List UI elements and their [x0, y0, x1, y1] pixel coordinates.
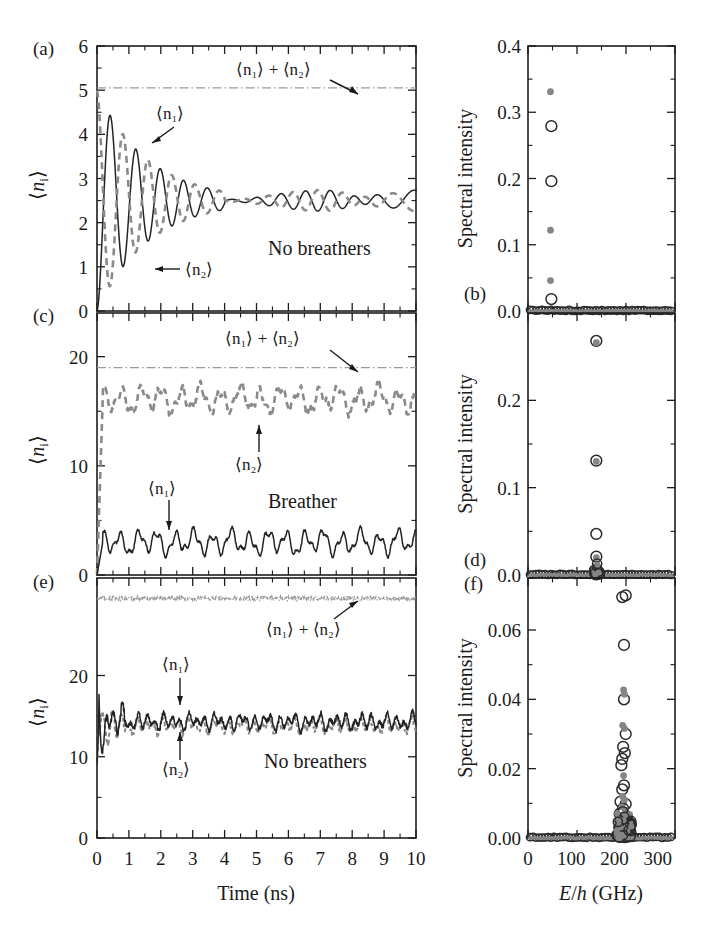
xtick-label-time: 5 [252, 848, 262, 869]
ytick-label-f: 0.02 [488, 759, 521, 780]
data-point-filled [621, 725, 628, 732]
xtick-label-time: 6 [284, 848, 294, 869]
panel-label-e: (e) [33, 571, 54, 593]
xaxis-title-time: Time (ns) [217, 882, 295, 905]
data-point-filled [547, 227, 554, 234]
ytick-label-a: 0 [79, 301, 89, 322]
panel-e: (e)01020⟨ni⟩⟨n₁⟩ + ⟨n₂⟩⟨n₁⟩⟨n₂⟩No breath… [26, 571, 426, 905]
ytick-label-f: 0.04 [488, 689, 522, 710]
data-point-filled [547, 277, 554, 284]
data-point-open [591, 529, 602, 540]
xtick-label-time: 9 [379, 848, 389, 869]
note-c: Breather [268, 490, 337, 512]
annotation-sum-a: ⟨n₁⟩ + ⟨n₂⟩ [236, 60, 311, 79]
xtick-label-time: 10 [407, 848, 426, 869]
annotation-n1-c: ⟨n₁⟩ [148, 479, 176, 498]
ytick-label-f: 0.00 [488, 828, 521, 849]
panel-d: (d)0.00.10.2Spectral intensity [454, 313, 675, 586]
ytick-label-e: 20 [69, 666, 88, 687]
ytick-label-d: 0.0 [497, 565, 521, 586]
xtick-label-time: 1 [124, 848, 134, 869]
data-point-filled [621, 796, 628, 803]
panel-f: (f)0.000.020.040.06Spectral intensity010… [454, 573, 675, 905]
annotation-n2-a: ⟨n₂⟩ [185, 260, 213, 279]
panel-a: (a)0123456⟨ni⟩⟨n₁⟩ + ⟨n₂⟩⟨n₁⟩⟨n₂⟩No brea… [26, 36, 416, 322]
ytick-label-b: 0.4 [497, 36, 521, 57]
data-point-open [616, 760, 627, 771]
note-e: No breathers [264, 750, 367, 772]
yaxis-title-d: Spectral intensity [454, 374, 477, 513]
n1-curve-a [97, 115, 416, 311]
yaxis-title-e: ⟨ni⟩ [26, 697, 51, 727]
plot-frame [97, 578, 416, 838]
ytick-label-b: 0.2 [497, 169, 521, 190]
panel-b: (b)0.00.10.20.30.4Spectral intensity [454, 36, 675, 322]
xtick-label-time: 7 [316, 848, 326, 869]
annotation-n1-e: ⟨n₁⟩ [162, 655, 190, 674]
ytick-label-b: 0.3 [497, 102, 521, 123]
annotation-sum-e: ⟨n₁⟩ + ⟨n₂⟩ [266, 620, 341, 639]
ytick-label-a: 1 [79, 257, 89, 278]
xtick-label-energy: 100 [557, 848, 586, 869]
ytick-label-c: 20 [69, 347, 88, 368]
panel-label-c: (c) [33, 305, 54, 327]
data-point-filled [547, 88, 554, 95]
data-point-open [620, 590, 631, 601]
xtick-label-time: 2 [156, 848, 166, 869]
annotation-n1-a: ⟨n₁⟩ [156, 104, 184, 123]
figure-svg: (a)0123456⟨ni⟩⟨n₁⟩ + ⟨n₂⟩⟨n₁⟩⟨n₂⟩No brea… [0, 0, 708, 936]
yaxis-title-c: ⟨ni⟩ [26, 435, 51, 465]
n2-curve-e [97, 710, 416, 765]
annotation-n2-c: ⟨n₂⟩ [235, 455, 263, 474]
xtick-label-time: 3 [188, 848, 198, 869]
ytick-label-d: 0.1 [497, 478, 521, 499]
plot-frame [528, 46, 675, 311]
xtick-label-time: 8 [347, 848, 357, 869]
ytick-label-b: 0.1 [497, 235, 521, 256]
panel-label-f: (f) [464, 573, 483, 595]
ytick-label-a: 3 [79, 169, 89, 190]
data-point-filled [593, 458, 600, 465]
data-point-filled [620, 772, 627, 779]
data-point-open [546, 294, 557, 305]
xtick-label-time: 0 [92, 848, 102, 869]
data-point-filled [621, 691, 628, 698]
plot-frame [528, 578, 675, 838]
ytick-label-b: 0.0 [497, 301, 521, 322]
ytick-label-e: 10 [69, 747, 88, 768]
ytick-label-a: 6 [79, 36, 89, 57]
yaxis-title-a: ⟨ni⟩ [26, 170, 51, 200]
data-point-open [546, 121, 557, 132]
plot-frame [97, 313, 416, 575]
ytick-label-d: 0.2 [497, 390, 521, 411]
ytick-label-a: 2 [79, 213, 89, 234]
data-point-open [619, 640, 630, 651]
xaxis-title-energy: E/h (GHz) [558, 882, 643, 905]
panel-label-a: (a) [33, 38, 54, 60]
yaxis-title-b: Spectral intensity [454, 109, 477, 248]
ytick-label-a: 4 [79, 124, 89, 145]
xtick-label-energy: 200 [600, 848, 629, 869]
note-a: No breathers [268, 237, 371, 259]
ytick-label-c: 10 [69, 456, 88, 477]
figure-container: (a)0123456⟨ni⟩⟨n₁⟩ + ⟨n₂⟩⟨n₁⟩⟨n₂⟩No brea… [0, 0, 708, 936]
ytick-label-a: 5 [79, 80, 89, 101]
xtick-label-energy: 0 [523, 848, 533, 869]
yaxis-title-f: Spectral intensity [454, 638, 477, 777]
data-point-filled [593, 339, 600, 346]
xtick-label-time: 4 [220, 848, 230, 869]
panel-c: (c)01020⟨ni⟩⟨n₁⟩ + ⟨n₂⟩⟨n₂⟩⟨n₁⟩Breather [26, 305, 416, 586]
sum-line-e [97, 596, 416, 600]
ytick-label-f: 0.06 [488, 620, 521, 641]
ytick-label-c: 0 [79, 565, 89, 586]
annotation-n2-e: ⟨n₂⟩ [162, 760, 190, 779]
ytick-label-e: 0 [79, 828, 89, 849]
annotation-sum-c: ⟨n₁⟩ + ⟨n₂⟩ [225, 329, 300, 348]
panel-label-d: (d) [464, 549, 486, 571]
panel-label-b: (b) [464, 283, 486, 305]
xtick-label-energy: 300 [643, 848, 672, 869]
data-point-open [546, 176, 557, 187]
